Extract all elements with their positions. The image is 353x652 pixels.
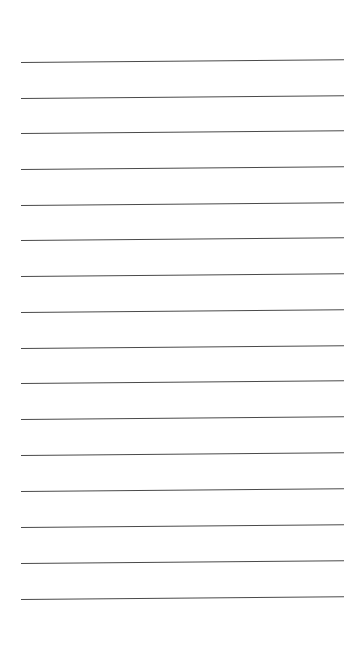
ruled-line: [21, 166, 344, 170]
lined-paper-page: [0, 0, 353, 652]
ruled-line: [21, 380, 344, 384]
ruled-line: [21, 309, 344, 313]
ruled-line: [21, 524, 344, 528]
ruled-line: [21, 345, 344, 349]
ruled-line: [21, 237, 344, 241]
ruled-line: [21, 488, 344, 492]
ruled-line: [21, 273, 344, 277]
ruled-line: [21, 95, 344, 99]
ruled-line: [21, 416, 344, 420]
ruled-line: [21, 202, 344, 206]
ruled-line: [21, 59, 344, 63]
ruled-line: [21, 596, 344, 600]
ruled-line: [21, 452, 344, 456]
ruled-line: [21, 560, 344, 564]
ruled-line: [21, 130, 344, 134]
